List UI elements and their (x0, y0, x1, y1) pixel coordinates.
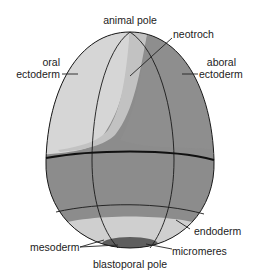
label-mesoderm: mesoderm (30, 241, 80, 253)
label-micromeres: micromeres (172, 245, 227, 257)
label-animal-pole: animal pole (95, 14, 165, 26)
label-aboral-line1: aboral (196, 56, 236, 68)
label-oral-line1: oral (10, 56, 60, 68)
label-oral-line2: ectoderm (2, 68, 60, 80)
label-neotroch: neotroch (173, 28, 214, 40)
label-aboral-line2: ectoderm (199, 68, 243, 80)
micromeres-region (102, 237, 158, 251)
label-endoderm: endoderm (194, 225, 241, 237)
label-blastoporal-pole: blastoporal pole (90, 258, 170, 270)
